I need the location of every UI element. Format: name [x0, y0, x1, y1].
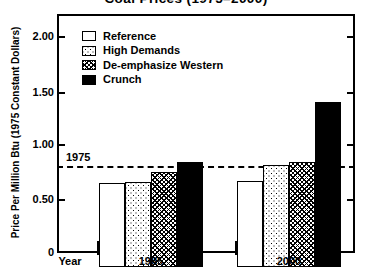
- x-axis-divider-right: [235, 241, 237, 255]
- legend-swatch-crunch-icon: [82, 75, 96, 85]
- y-tick-label-0-50: 0.50: [8, 194, 54, 205]
- reference-line-label: 1975: [66, 152, 90, 163]
- legend-label-reference: Reference: [103, 31, 156, 42]
- bar-1985-crunch: [177, 162, 203, 267]
- bar-2000-de-emphasize-western: [289, 162, 315, 267]
- legend-item-reference: Reference: [82, 29, 223, 44]
- y-tick-mark-0-50: [57, 199, 65, 201]
- x-group-label-1985: 1985: [121, 255, 181, 267]
- y-tick-mark-right-1-50: [347, 92, 355, 94]
- x-group-label-2000: 2000: [259, 255, 319, 267]
- y-tick-mark-1-50: [57, 92, 65, 94]
- y-tick-label-1-50: 1.50: [8, 87, 54, 98]
- y-tick-mark-2-00: [57, 36, 65, 38]
- chart-title: Coal Prices (1975–2000): [0, 0, 372, 6]
- legend-swatch-reference-icon: [82, 31, 96, 41]
- coal-prices-bar-chart: Coal Prices (1975–2000) Price Per Millio…: [0, 0, 372, 267]
- legend-item-de-emphasize-western: De-emphasize Western: [82, 58, 223, 73]
- bar-1985-de-emphasize-western: [151, 172, 177, 267]
- legend-item-high-demands: High Demands: [82, 44, 223, 59]
- legend-swatch-high-demands-icon: [82, 46, 96, 56]
- y-axis-title: Price Per Million Btu (1975 Constant Dol…: [10, 17, 21, 249]
- legend: Reference High Demands De-emphasize West…: [82, 29, 223, 87]
- y-tick-label-1-00: 1.00: [8, 139, 54, 150]
- y-tick-mark-right-1-00: [347, 144, 355, 146]
- y-tick-mark-right-2-00: [347, 36, 355, 38]
- legend-item-crunch: Crunch: [82, 73, 223, 88]
- legend-label-de-emphasize-western: De-emphasize Western: [103, 60, 223, 71]
- bar-2000-high-demands: [263, 165, 289, 267]
- x-axis-title: Year: [40, 255, 100, 267]
- y-tick-mark-right-0-50: [347, 199, 355, 201]
- legend-label-high-demands: High Demands: [103, 45, 180, 56]
- bar-2000-crunch: [315, 102, 341, 267]
- x-axis-divider-left: [97, 241, 99, 255]
- legend-swatch-de-emphasize-western-icon: [82, 60, 96, 70]
- legend-label-crunch: Crunch: [103, 74, 142, 85]
- y-tick-mark-1-00: [57, 144, 65, 146]
- y-tick-label-2-00: 2.00: [8, 31, 54, 42]
